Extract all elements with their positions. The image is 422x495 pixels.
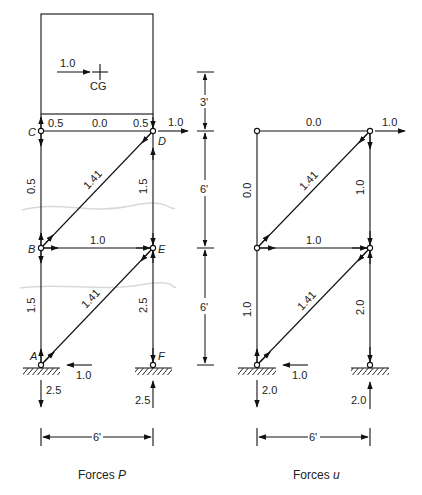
- labels-p: 1.0 CG C D B E A F 0.5 0.0 0.5 1.0 0.5 1…: [25, 57, 183, 482]
- reaction-A-horizontal-label: 1.0: [76, 369, 91, 381]
- joint-label-F: F: [158, 350, 166, 362]
- reaction-u-left-horizontal-label: 1.0: [292, 369, 307, 381]
- height-dim-6ft-lower: 6': [200, 301, 208, 313]
- joint-E: [150, 245, 155, 250]
- member-EF-force: 2.5: [137, 298, 149, 313]
- height-dimension: [197, 72, 214, 365]
- joint-u-top-right: [367, 128, 372, 133]
- height-dim-3ft: 3': [200, 96, 208, 108]
- member-u-right-lower-force: 2.0: [354, 300, 366, 315]
- reaction-F-vertical-label: 2.5: [135, 394, 150, 406]
- reaction-u-right-vertical-label: 2.0: [351, 394, 366, 406]
- member-BE-force: 1.0: [90, 234, 105, 246]
- member-BA-force: 1.5: [25, 298, 37, 313]
- labels-u: 0.0 1.0 0.0 1.0 1.41 1.0 1.0 2.0 1.41 1.…: [241, 116, 397, 482]
- member-u-right-upper-force: 1.0: [354, 180, 366, 195]
- cg-label: CG: [90, 80, 107, 92]
- member-u-left-upper-force: 0.0: [241, 183, 253, 198]
- load-u-top-right-label: 1.0: [382, 116, 397, 128]
- joint-A: [38, 362, 43, 367]
- width-dim-p-label: 6': [93, 431, 101, 443]
- forces-p-diagram: [23, 14, 188, 446]
- joint-C: [38, 128, 43, 133]
- member-DE-force: 1.5: [137, 179, 149, 194]
- member-u-top-force: 0.0: [306, 116, 321, 128]
- reaction-u-left-vertical-label: 2.0: [262, 384, 277, 396]
- joint-u-bottom-left: [254, 362, 259, 367]
- reaction-A-vertical-label: 2.5: [46, 384, 61, 396]
- member-AE-force: 1.41: [79, 287, 102, 311]
- joint-label-A: A: [29, 350, 37, 362]
- height-dim-labels: 3' 6' 6': [200, 96, 208, 313]
- member-CD-left-force: 0.5: [48, 117, 63, 129]
- height-dim-6ft-upper: 6': [200, 183, 208, 195]
- member-u-diag-upper-force: 1.41: [297, 169, 320, 193]
- joint-label-D: D: [158, 135, 166, 147]
- width-dim-u-label: 6': [309, 431, 317, 443]
- joint-D: [150, 128, 155, 133]
- member-u-middle-force: 1.0: [306, 234, 321, 246]
- member-BD-force: 1.41: [81, 168, 104, 192]
- member-u-diag-lower-force: 1.41: [295, 289, 318, 313]
- member-u-left-lower-force: 1.0: [241, 302, 253, 317]
- member-CB-force: 0.5: [25, 179, 37, 194]
- joint-u-mid-left: [254, 245, 259, 250]
- member-CD-right-force: 0.5: [133, 117, 148, 129]
- joint-label-B: B: [28, 243, 35, 255]
- joint-label-E: E: [158, 243, 166, 255]
- caption-forces-u: Forces u: [293, 468, 340, 482]
- joint-u-top-left: [254, 128, 259, 133]
- load-D-label: 1.0: [168, 116, 183, 128]
- member-CD-mid-force: 0.0: [92, 117, 107, 129]
- superstructure-box: [41, 14, 153, 114]
- joint-label-C: C: [28, 126, 36, 138]
- forces-u-diagram: [238, 131, 405, 446]
- diagram-canvas: 1.0 CG C D B E A F 0.5 0.0 0.5 1.0 0.5 1…: [0, 0, 422, 495]
- caption-forces-p: Forces P: [78, 468, 126, 482]
- cg-force-label: 1.0: [60, 57, 75, 69]
- joint-u-mid-right: [367, 245, 372, 250]
- joint-u-bottom-right: [367, 362, 372, 367]
- joint-B: [38, 245, 43, 250]
- joint-F: [150, 362, 155, 367]
